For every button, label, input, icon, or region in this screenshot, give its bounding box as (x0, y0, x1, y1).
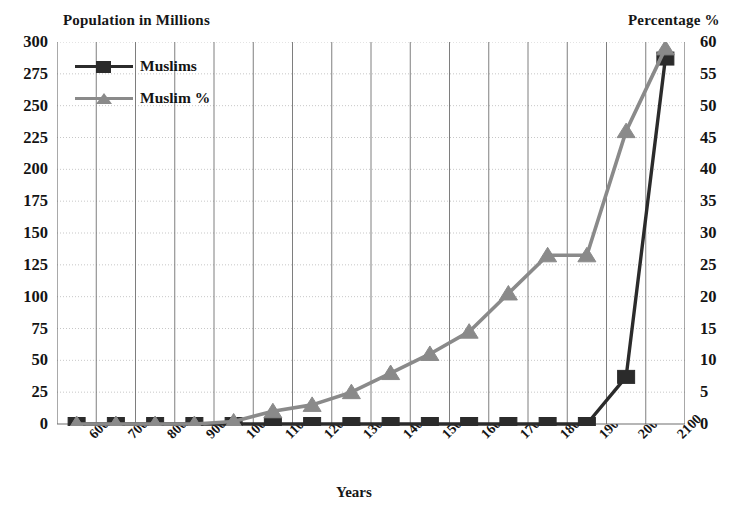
y2-tick-label: 60 (700, 34, 717, 51)
data-point-marker (421, 346, 439, 361)
y-tick-label: 150 (4, 225, 48, 242)
x-tick-label: 1300 (360, 431, 371, 442)
x-tick-label: 1900 (596, 431, 607, 442)
y-tick-label: 100 (4, 289, 48, 306)
y-tick-label: 175 (4, 193, 48, 210)
y2-tick-label: 40 (700, 161, 717, 178)
y-tick-label: 225 (4, 130, 48, 147)
data-point-marker (264, 418, 281, 427)
data-point-marker (578, 418, 595, 427)
y2-tick-label: 10 (700, 352, 717, 369)
data-point-marker (617, 123, 635, 138)
primary-y-axis-title: Population in Millions (63, 12, 210, 29)
y-tick-label: 25 (4, 384, 48, 401)
legend-label: Muslims (140, 57, 197, 75)
legend-square-icon (75, 59, 133, 73)
data-point-marker (656, 42, 674, 55)
y2-tick-label: 5 (700, 384, 708, 401)
chart-container: Population in Millions Percentage % Year… (0, 0, 748, 518)
data-point-marker (461, 418, 478, 427)
legend-label: Muslim % (140, 89, 210, 107)
data-point-marker (382, 365, 400, 380)
y2-tick-label: 35 (700, 193, 717, 210)
legend-item[interactable]: Muslim % (75, 89, 210, 107)
data-point-marker (500, 418, 517, 427)
y-tick-label: 125 (4, 257, 48, 274)
x-tick-label: 700 (125, 431, 136, 442)
y2-tick-label: 50 (700, 98, 717, 115)
y-tick-label: 0 (4, 416, 48, 433)
data-point-marker (618, 370, 635, 383)
y2-tick-label: 25 (700, 257, 717, 274)
data-point-marker (382, 418, 399, 427)
x-tick-label: 1400 (400, 431, 411, 442)
y-tick-label: 275 (4, 66, 48, 83)
x-tick-label: 1700 (517, 431, 528, 442)
x-tick-label: 2000 (635, 431, 646, 442)
x-tick-label: 900 (203, 431, 214, 442)
x-tick-label: 1500 (439, 431, 450, 442)
data-point-marker (343, 418, 360, 427)
x-tick-label: 1800 (557, 431, 568, 442)
x-tick-label: 600 (86, 431, 97, 442)
x-tick-label: 1100 (282, 431, 293, 442)
data-point-marker (304, 418, 321, 427)
secondary-y-axis-title: Percentage % (628, 12, 720, 29)
legend-item[interactable]: Muslims (75, 57, 197, 75)
y2-tick-label: 15 (700, 321, 717, 338)
data-point-marker (539, 418, 556, 427)
x-tick-label: 2100 (674, 431, 685, 442)
data-point-marker (342, 384, 360, 399)
legend-triangle-icon (75, 91, 133, 105)
y2-tick-label: 55 (700, 66, 717, 83)
y-tick-label: 50 (4, 352, 48, 369)
y-tick-label: 250 (4, 98, 48, 115)
x-tick-label: 800 (164, 431, 175, 442)
y2-tick-label: 20 (700, 289, 717, 306)
x-tick-label: 1200 (321, 431, 332, 442)
y-tick-label: 300 (4, 34, 48, 51)
x-tick-label: 1600 (478, 431, 489, 442)
y2-tick-label: 30 (700, 225, 717, 242)
y2-tick-label: 45 (700, 130, 717, 147)
data-point-marker (421, 418, 438, 427)
x-axis-title: Years (336, 484, 372, 501)
x-tick-label: 1000 (243, 431, 254, 442)
y-tick-label: 75 (4, 321, 48, 338)
y-tick-label: 200 (4, 161, 48, 178)
